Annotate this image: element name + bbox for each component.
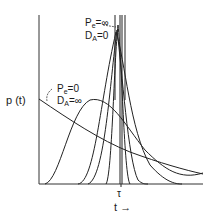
tau-label: τ	[117, 189, 121, 199]
curve-pe-zero	[39, 99, 203, 174]
y-axis-label: p (t)	[6, 95, 26, 105]
annotation-da-zero: DA=0	[85, 31, 108, 44]
annotation-da-infinity: DA=∞	[57, 96, 82, 109]
curve-low-pe	[45, 99, 203, 184]
p-symbol: P	[85, 17, 92, 28]
leader-mid	[47, 89, 52, 101]
d-relation: =0	[97, 30, 108, 41]
p-relation: =∞	[96, 17, 109, 28]
p-relation: =0	[68, 83, 79, 94]
x-axis-label: t →	[114, 202, 131, 212]
right-arrow-icon: →	[120, 201, 131, 213]
p-symbol: P	[57, 83, 64, 94]
curve-medium-pe	[78, 32, 182, 184]
curve-very-high-pe	[106, 25, 130, 184]
curve-high-pe	[88, 30, 148, 184]
x-axis-label-text: t	[114, 201, 117, 213]
d-relation: =∞	[69, 95, 82, 106]
